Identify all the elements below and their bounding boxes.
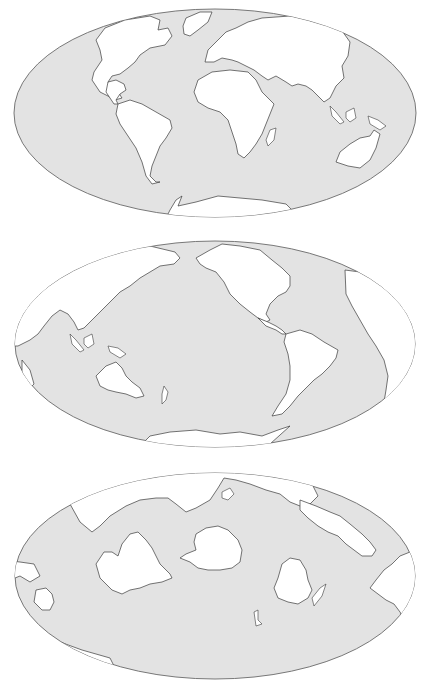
map-atlantic-centered — [0, 0, 430, 230]
ocean-ellipse — [14, 9, 416, 217]
map-southern-oriented — [0, 460, 430, 689]
world-maps-figure — [0, 0, 430, 689]
map-pacific-centered — [0, 230, 430, 460]
